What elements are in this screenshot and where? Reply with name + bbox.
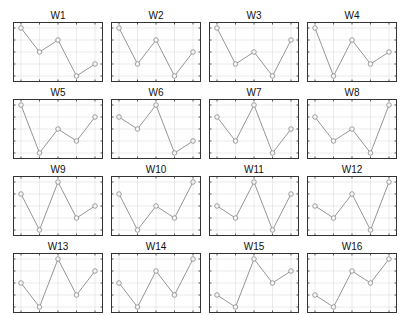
panel-title: W11 (209, 164, 299, 175)
data-point-marker (135, 62, 140, 67)
panel-title: W2 (111, 10, 201, 21)
data-point-marker (289, 192, 294, 197)
line-plot (307, 253, 397, 313)
data-point-marker (215, 204, 220, 209)
data-point-marker (368, 151, 373, 156)
line-plot (307, 22, 397, 82)
data-point-marker (172, 216, 177, 221)
data-point-marker (172, 293, 177, 298)
line-plot (111, 253, 201, 313)
data-point-marker (368, 281, 373, 286)
data-point-marker (117, 192, 122, 197)
panel-title: W4 (307, 10, 397, 21)
panel-title: W10 (111, 164, 201, 175)
data-point-marker (387, 180, 392, 185)
data-point-marker (56, 257, 61, 262)
data-point-marker (117, 26, 122, 31)
line-plot (13, 176, 103, 236)
panel-w7: W7 (209, 87, 299, 161)
data-point-marker (117, 115, 122, 120)
data-point-marker (252, 257, 257, 262)
data-point-marker (270, 281, 275, 286)
panel-title: W13 (13, 241, 103, 252)
line-plot (307, 99, 397, 159)
data-point-marker (233, 216, 238, 221)
data-point-marker (154, 269, 159, 274)
data-point-marker (387, 103, 392, 108)
data-point-marker (172, 151, 177, 156)
line-plot (111, 99, 201, 159)
data-point-marker (331, 216, 336, 221)
panel-title: W5 (13, 87, 103, 98)
data-point-marker (191, 139, 196, 144)
panel-w9: W9 (13, 164, 103, 238)
panel-w2: W2 (111, 10, 201, 84)
data-point-marker (289, 269, 294, 274)
data-point-marker (368, 228, 373, 233)
data-point-marker (93, 62, 98, 67)
data-point-marker (215, 293, 220, 298)
panel-title: W12 (307, 164, 397, 175)
panel-w3: W3 (209, 10, 299, 84)
data-point-marker (233, 139, 238, 144)
data-point-marker (368, 62, 373, 67)
data-point-marker (313, 293, 318, 298)
panel-title: W6 (111, 87, 201, 98)
line-plot (13, 22, 103, 82)
data-point-marker (270, 228, 275, 233)
data-point-marker (350, 127, 355, 132)
data-point-marker (19, 103, 24, 108)
data-point-marker (74, 139, 79, 144)
data-point-marker (289, 127, 294, 132)
data-point-marker (215, 115, 220, 120)
data-point-marker (56, 180, 61, 185)
panel-w10: W10 (111, 164, 201, 238)
panel-w12: W12 (307, 164, 397, 238)
panel-title: W14 (111, 241, 201, 252)
line-plot (209, 22, 299, 82)
data-point-marker (313, 26, 318, 31)
panel-w14: W14 (111, 241, 201, 315)
panel-w15: W15 (209, 241, 299, 315)
line-plot (209, 176, 299, 236)
data-point-marker (191, 180, 196, 185)
panel-w13: W13 (13, 241, 103, 315)
data-point-marker (252, 180, 257, 185)
data-point-marker (313, 204, 318, 209)
data-point-marker (331, 305, 336, 310)
panel-title: W1 (13, 10, 103, 21)
data-point-marker (331, 139, 336, 144)
panel-w16: W16 (307, 241, 397, 315)
data-point-marker (117, 281, 122, 286)
data-point-marker (154, 38, 159, 43)
line-plot (209, 253, 299, 313)
data-point-marker (74, 216, 79, 221)
data-point-marker (19, 26, 24, 31)
data-point-marker (270, 74, 275, 79)
data-point-marker (350, 38, 355, 43)
line-plot (13, 99, 103, 159)
data-point-marker (289, 38, 294, 43)
data-point-marker (350, 269, 355, 274)
panel-w8: W8 (307, 87, 397, 161)
data-point-marker (154, 103, 159, 108)
data-point-marker (135, 127, 140, 132)
data-point-marker (233, 62, 238, 67)
line-plot (13, 253, 103, 313)
data-point-marker (19, 192, 24, 197)
data-point-marker (93, 115, 98, 120)
line-plot (307, 176, 397, 236)
panel-title: W7 (209, 87, 299, 98)
data-point-marker (313, 115, 318, 120)
data-point-marker (93, 204, 98, 209)
data-point-marker (191, 50, 196, 55)
data-point-marker (270, 151, 275, 156)
panel-title: W3 (209, 10, 299, 21)
data-point-marker (135, 305, 140, 310)
panel-w5: W5 (13, 87, 103, 161)
panel-w6: W6 (111, 87, 201, 161)
panel-title: W16 (307, 241, 397, 252)
data-point-marker (93, 269, 98, 274)
data-point-marker (233, 305, 238, 310)
data-point-marker (56, 38, 61, 43)
